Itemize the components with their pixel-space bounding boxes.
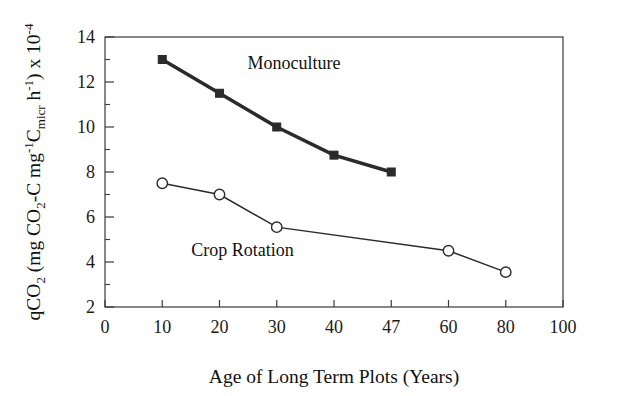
svg-text:qCO2 (mg CO2-C mg-1Cmicr h-1): qCO2 (mg CO2-C mg-1Cmicr h-1) x 10-4 [21, 23, 48, 320]
y-tick-label: 8 [86, 162, 95, 182]
monoculture-series-label: Monoculture [247, 53, 340, 73]
data-point-crop-rotation [443, 246, 453, 256]
y-tick-label: 12 [77, 72, 95, 92]
x-tick-label: 80 [497, 317, 515, 337]
chart-figure: 010203040476080100 2468101214 Monocultur… [0, 0, 617, 396]
data-point-monoculture [158, 56, 166, 64]
data-point-crop-rotation [501, 267, 511, 277]
x-tick-label: 10 [153, 317, 171, 337]
y-tick-label: 14 [77, 27, 95, 47]
data-point-monoculture [330, 151, 338, 159]
data-point-crop-rotation [214, 189, 224, 199]
y-tick-label: 6 [86, 207, 95, 227]
y-tick-label: 4 [86, 252, 95, 272]
x-axis-ticks [105, 300, 563, 307]
x-tick-label: 60 [440, 317, 458, 337]
data-point-crop-rotation [272, 222, 282, 232]
y-axis-tick-labels: 2468101214 [77, 27, 95, 317]
y-tick-label: 10 [77, 117, 95, 137]
x-axis-title: Age of Long Term Plots (Years) [209, 366, 459, 388]
x-tick-label: 0 [101, 317, 110, 337]
y-axis-title: qCO2 (mg CO2-C mg-1Cmicr h-1) x 10-4 [21, 23, 48, 320]
plot-frame [105, 37, 563, 307]
y-axis-ticks [105, 37, 114, 307]
data-point-crop-rotation [157, 178, 167, 188]
monoculture-line [162, 60, 391, 173]
x-axis-tick-labels: 010203040476080100 [101, 317, 577, 337]
crop-rotation-series-label: Crop Rotation [191, 240, 294, 260]
x-tick-label: 30 [268, 317, 286, 337]
data-point-monoculture [387, 168, 395, 176]
line-chart-svg: 010203040476080100 2468101214 Monocultur… [0, 0, 617, 396]
x-tick-label: 100 [550, 317, 577, 337]
x-tick-label: 40 [325, 317, 343, 337]
data-point-monoculture [273, 123, 281, 131]
data-point-monoculture [216, 89, 224, 97]
y-tick-label: 2 [86, 297, 95, 317]
monoculture-markers [158, 56, 395, 177]
x-tick-label: 47 [382, 317, 400, 337]
x-tick-label: 20 [211, 317, 229, 337]
